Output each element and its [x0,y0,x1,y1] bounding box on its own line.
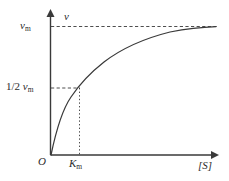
y-tick-label-half-vmax: 1/2 vm [6,81,34,93]
x-tick-label-km: Km [69,158,82,170]
michaelis-menten-curve [51,27,216,155]
x-axis-label: [S] [198,160,212,171]
y-tick-label-vmax: vm [20,20,31,32]
plot-canvas [0,0,229,181]
y-tick-label-half-prefix: 1/2 [6,80,23,92]
y-tick-label-vmax-sub: m [25,24,31,33]
y-axis-label: v [64,11,69,22]
origin-label: O [38,156,46,167]
michaelis-menten-figure: v vm 1/2 vm O Km [S] [0,0,229,181]
y-tick-label-half-sub: m [28,85,34,94]
x-tick-label-km-sub: m [76,162,82,171]
